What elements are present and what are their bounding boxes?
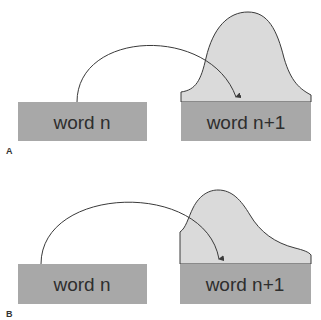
diagram-canvas: word n word n+1 A word n word n+1 B: [0, 0, 321, 320]
distribution-curve-b: [180, 190, 311, 264]
panel-label-b: B: [6, 309, 13, 319]
word-n-label-a: word n: [52, 112, 110, 133]
word-n1-label-a: word n+1: [206, 112, 286, 133]
word-n1-label-b: word n+1: [205, 274, 285, 295]
panel-b: word n word n+1 B: [6, 190, 311, 319]
word-n-label-b: word n: [52, 274, 110, 295]
panel-a: word n word n+1 A: [6, 12, 311, 156]
panel-label-a: A: [6, 146, 13, 156]
